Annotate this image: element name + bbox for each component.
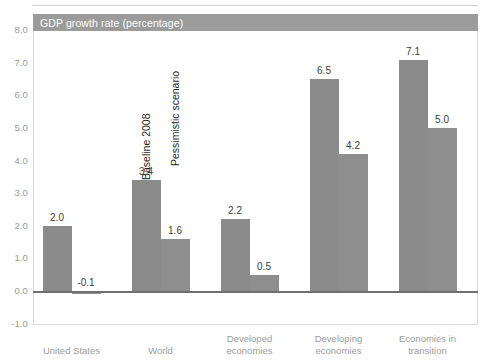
category-label-3: Developedeconomies bbox=[202, 333, 298, 357]
y-tick-6-0: 6.0 bbox=[2, 90, 28, 100]
y-tick-3-0: 3.0 bbox=[2, 188, 28, 198]
y-tick--1-0: -1.0 bbox=[2, 319, 28, 329]
y-tick-5-0: 5.0 bbox=[2, 123, 28, 133]
y-tick-4-0: 4.0 bbox=[2, 156, 28, 166]
category-line: Economies in bbox=[399, 333, 456, 344]
bar-value-label: 0.5 bbox=[242, 261, 287, 272]
bar-value-label: -0.1 bbox=[64, 277, 109, 288]
chart-figure: 8.07.06.05.04.03.02.01.00.0-1.0 GDP grow… bbox=[0, 0, 489, 361]
bar bbox=[339, 154, 368, 291]
bar bbox=[161, 239, 190, 291]
category-label-5: Economies intransition bbox=[380, 333, 476, 357]
series-name-1: Baseline 2008 bbox=[141, 113, 152, 180]
chart-title-text: GDP growth rate (percentage) bbox=[40, 17, 183, 29]
bar-value-label: 2.0 bbox=[35, 212, 80, 223]
bar bbox=[250, 275, 279, 291]
bar bbox=[399, 60, 428, 291]
bar bbox=[310, 79, 339, 291]
category-label-1: United States bbox=[24, 345, 120, 357]
category-line: Developing bbox=[315, 333, 363, 344]
category-line: United States bbox=[43, 345, 100, 356]
title-remnant-line bbox=[32, 5, 478, 6]
y-tick-1-0: 1.0 bbox=[2, 253, 28, 263]
bar-value-label: 1.6 bbox=[153, 225, 198, 236]
y-tick-2-0: 2.0 bbox=[2, 221, 28, 231]
bar-value-label: 5.0 bbox=[420, 114, 465, 125]
y-tick-7-0: 7.0 bbox=[2, 58, 28, 68]
bar bbox=[221, 219, 250, 291]
category-label-4: Developingeconomies bbox=[291, 333, 387, 357]
chart-title-band: GDP growth rate (percentage) bbox=[33, 14, 478, 31]
bar-value-label: 4.2 bbox=[331, 140, 376, 151]
bar bbox=[428, 128, 457, 291]
series-name-2: Pessimistic scenario bbox=[170, 71, 181, 166]
bar-value-label: 6.5 bbox=[302, 65, 347, 76]
category-label-2: World bbox=[113, 345, 209, 357]
category-line: World bbox=[148, 345, 173, 356]
bar-value-label: 7.1 bbox=[391, 46, 436, 57]
y-tick-8-0: 8.0 bbox=[2, 25, 28, 35]
category-line: economies bbox=[316, 345, 362, 356]
category-line: Developed bbox=[227, 333, 272, 344]
y-tick-0-0: 0.0 bbox=[2, 286, 28, 296]
zero-baseline bbox=[33, 291, 478, 293]
category-line: economies bbox=[227, 345, 273, 356]
category-line: transition bbox=[408, 345, 447, 356]
bar-value-label: 2.2 bbox=[213, 205, 258, 216]
cropped-title-strip bbox=[0, 0, 489, 6]
